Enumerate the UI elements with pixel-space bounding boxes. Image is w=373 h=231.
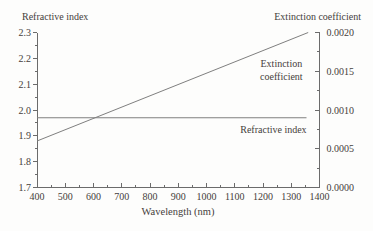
x-tick-label: 800 [143,191,158,202]
optical-constants-figure: Refractive index Extinction coefficient … [0,0,373,231]
right-tick-label: 0.0015 [327,66,355,77]
x-tick-label: 500 [58,191,73,202]
line-chart: Refractive index Extinction coefficient … [0,0,373,231]
x-tick-label: 700 [114,191,129,202]
left-tick-label: 1.7 [19,182,32,193]
left-axis-title: Refractive index [22,11,88,22]
left-tick-label: 1.8 [19,156,32,167]
left-tick-label: 2.0 [19,105,32,116]
right-tick-label: 0.0020 [327,27,355,38]
left-tick-label: 2.3 [19,27,32,38]
x-tick-label: 900 [171,191,186,202]
left-tick-label: 2.2 [19,53,32,64]
annotation-refractive: Refractive index [240,124,306,135]
x-tick-label: 1300 [281,191,301,202]
annotation-extinction: Extinctioncoefficient [260,58,303,82]
x-tick-label: 1100 [225,191,245,202]
right-tick-label: 0.0000 [327,182,355,193]
x-tick-label: 1000 [197,191,217,202]
left-tick-label: 1.9 [19,130,32,141]
right-axis-title: Extinction coefficient [274,11,361,22]
x-tick-label: 400 [30,191,45,202]
plot-area: 400500600700800900100011001200130014001.… [19,27,355,202]
right-tick-label: 0.0005 [327,143,355,154]
right-tick-label: 0.0010 [327,105,355,116]
x-tick-label: 600 [86,191,101,202]
x-tick-label: 1200 [253,191,273,202]
left-tick-label: 2.1 [19,79,32,90]
x-axis-title: Wavelength (nm) [142,206,215,218]
